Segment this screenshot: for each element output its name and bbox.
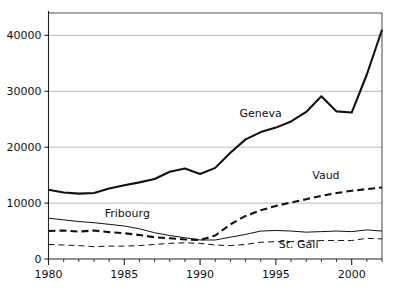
y-axis-ticks: 010000200003000040000 [7, 29, 49, 266]
series-label-st-gall: St. Gall [279, 238, 319, 251]
chart-container: 0100002000030000400001980198519901995200… [0, 0, 404, 291]
series-line-fribourg [49, 218, 383, 240]
y-tick-label-0: 0 [35, 253, 42, 266]
series-label-vaud: Vaud [312, 169, 339, 182]
x-tick-label-1990: 1990 [186, 268, 214, 281]
x-tick-label-1995: 1995 [262, 268, 290, 281]
y-tick-label-20000: 20000 [7, 141, 42, 154]
series-label-fribourg: Fribourg [105, 207, 150, 220]
series-line-vaud [49, 187, 383, 240]
x-tick-label-1980: 1980 [35, 268, 63, 281]
y-tick-label-40000: 40000 [7, 29, 42, 42]
axes [49, 11, 383, 259]
series-lines [49, 30, 383, 247]
x-axis-ticks: 19801985199019952000 [35, 259, 366, 281]
x-tick-label-2000: 2000 [338, 268, 366, 281]
plot-frame [49, 13, 383, 259]
y-tick-label-30000: 30000 [7, 85, 42, 98]
x-tick-label-1985: 1985 [110, 268, 138, 281]
line-chart: 0100002000030000400001980198519901995200… [0, 0, 404, 291]
series-label-geneva: Geneva [240, 107, 282, 120]
y-tick-label-10000: 10000 [7, 197, 42, 210]
